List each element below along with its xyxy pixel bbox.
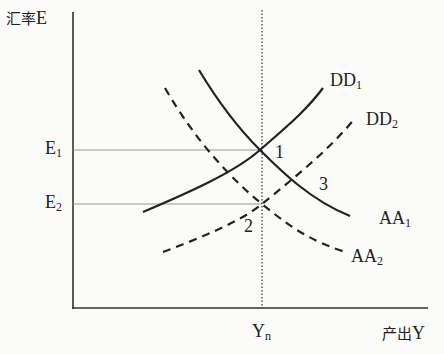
dd1-label: DD1 [330, 71, 362, 91]
e2-tick-label: E2 [45, 193, 62, 213]
point-1-label: 1 [275, 143, 284, 161]
dd2-label: DD2 [366, 110, 398, 130]
point-2-label: 2 [244, 217, 253, 235]
diagram-canvas [0, 0, 444, 354]
y-axis-label: 汇率E [6, 9, 47, 27]
aa2-label: AA2 [351, 247, 383, 267]
aa1-label: AA1 [379, 209, 411, 229]
point-3-label: 3 [319, 175, 328, 193]
x-axis-label: 产出Y [382, 324, 425, 342]
yn-tick-label: Yn [252, 322, 271, 342]
aa2-curve [165, 88, 345, 252]
e1-tick-label: E1 [45, 139, 62, 159]
